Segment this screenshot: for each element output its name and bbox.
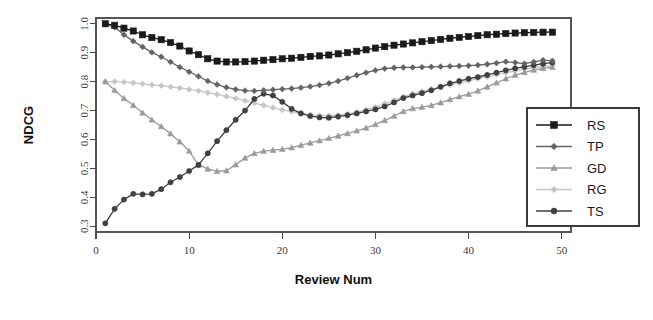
data-marker	[112, 22, 118, 28]
plot-frame	[96, 18, 571, 232]
data-marker	[438, 36, 444, 42]
data-marker	[373, 107, 378, 112]
data-marker	[168, 59, 174, 65]
data-marker	[223, 85, 229, 91]
data-marker	[382, 66, 388, 72]
data-marker	[391, 100, 396, 105]
y-tick-label: 0.8	[78, 74, 90, 88]
data-marker	[270, 105, 276, 111]
data-marker	[298, 54, 304, 60]
data-marker	[279, 86, 285, 92]
data-marker	[493, 31, 499, 37]
data-marker	[316, 53, 322, 59]
y-tick-label: 0.5	[78, 161, 90, 175]
data-marker	[177, 85, 183, 91]
x-tick-label: 50	[556, 244, 568, 256]
data-marker	[429, 88, 434, 93]
data-marker	[428, 64, 434, 70]
data-marker	[177, 43, 183, 49]
data-marker	[484, 32, 490, 38]
data-marker	[419, 39, 425, 45]
data-marker	[280, 99, 285, 104]
data-marker	[205, 78, 211, 84]
y-tick-label: 0.4	[78, 190, 90, 204]
legend-box	[527, 108, 639, 226]
data-marker	[177, 64, 183, 70]
data-marker	[345, 113, 350, 118]
data-marker	[410, 65, 416, 71]
data-marker	[447, 63, 453, 69]
data-marker	[438, 64, 444, 70]
data-marker	[131, 191, 136, 196]
y-tick-label: 0.9	[78, 45, 90, 59]
data-marker	[345, 75, 351, 81]
data-marker	[233, 59, 239, 65]
x-tick-label: 0	[93, 244, 99, 256]
data-marker	[512, 60, 518, 66]
data-marker	[456, 63, 462, 69]
data-marker	[447, 35, 453, 41]
data-marker	[503, 59, 509, 65]
data-marker	[382, 44, 388, 50]
data-marker	[288, 55, 294, 61]
legend-label-rs: RS	[587, 118, 605, 133]
y-tick-label: 1.0	[78, 16, 90, 30]
data-marker	[186, 87, 192, 93]
data-marker	[466, 63, 472, 69]
data-marker	[335, 78, 341, 84]
y-tick-label: 0.6	[78, 132, 90, 146]
data-marker	[279, 56, 285, 62]
data-marker	[279, 107, 285, 113]
data-marker	[261, 102, 267, 108]
data-marker	[205, 56, 211, 62]
data-marker	[214, 91, 220, 97]
data-marker	[531, 29, 537, 35]
data-marker	[484, 61, 490, 67]
data-marker	[410, 93, 415, 98]
data-marker	[252, 96, 257, 101]
data-marker	[298, 85, 304, 91]
x-tick-label: 30	[370, 244, 382, 256]
x-tick-label: 40	[463, 244, 475, 256]
data-marker	[168, 180, 173, 185]
data-marker	[521, 30, 527, 36]
x-tick-label: 20	[277, 244, 289, 256]
data-marker	[540, 29, 546, 35]
data-marker	[494, 60, 500, 66]
data-marker	[214, 58, 220, 64]
y-tick-label: 0.3	[78, 219, 90, 233]
data-marker	[307, 84, 313, 90]
x-tick-label: 10	[184, 244, 196, 256]
data-marker	[466, 76, 471, 81]
data-marker	[140, 192, 145, 197]
data-marker	[214, 82, 220, 88]
data-marker	[400, 65, 406, 71]
y-axis-title: NDCG	[21, 106, 36, 144]
data-marker	[317, 82, 323, 88]
data-marker	[513, 66, 518, 71]
ndcg-line-chart: 0.30.40.50.60.70.80.91.0NDCG01020304050R…	[0, 0, 653, 320]
data-marker	[270, 57, 276, 63]
legend-label-tp: TP	[587, 139, 604, 154]
data-marker	[205, 151, 210, 156]
data-marker	[335, 51, 341, 57]
data-marker	[326, 115, 331, 120]
data-marker	[465, 33, 471, 39]
data-marker	[196, 74, 202, 80]
x-axis: 01020304050	[93, 232, 567, 256]
y-axis: 0.30.40.50.60.70.80.91.0	[78, 16, 96, 233]
data-marker	[475, 33, 481, 39]
data-marker	[223, 59, 229, 65]
data-marker	[149, 35, 155, 41]
data-marker	[159, 187, 164, 192]
data-marker	[317, 115, 322, 120]
data-marker	[196, 88, 202, 94]
data-marker	[233, 87, 239, 93]
data-marker	[242, 98, 248, 104]
data-marker	[130, 80, 136, 86]
data-marker	[224, 128, 229, 133]
data-marker	[186, 48, 192, 54]
data-marker	[503, 68, 508, 73]
data-marker	[363, 70, 369, 76]
data-marker	[186, 69, 192, 75]
